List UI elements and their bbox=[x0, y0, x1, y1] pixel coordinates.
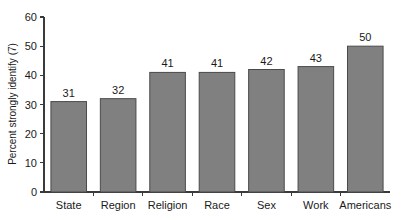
x-axis-category-label: Region bbox=[101, 199, 136, 211]
bar-value-label: 43 bbox=[310, 52, 322, 64]
x-axis-category-label: Work bbox=[303, 199, 329, 211]
bar bbox=[249, 70, 285, 193]
x-axis-category-label: Americans bbox=[339, 199, 391, 211]
y-axis-tick-label: 50 bbox=[25, 40, 37, 52]
bar bbox=[51, 102, 87, 192]
x-axis-category-label: State bbox=[56, 199, 82, 211]
bar-value-label: 32 bbox=[112, 84, 124, 96]
y-axis-title: Percent strongly identify (7) bbox=[7, 43, 18, 165]
x-axis-category-labels: StateRegionReligionRaceSexWorkAmericans bbox=[56, 199, 392, 211]
bar bbox=[100, 99, 136, 192]
bar-chart-figure: Percent strongly identify (7) 0102030405… bbox=[0, 0, 403, 220]
bar bbox=[199, 72, 235, 192]
bar bbox=[298, 67, 334, 192]
y-axis-tick-label: 10 bbox=[25, 157, 37, 169]
y-axis-title-text: Percent strongly identify (7) bbox=[7, 43, 18, 165]
y-axis-tick-label: 30 bbox=[25, 99, 37, 111]
x-axis-category-label: Religion bbox=[148, 199, 188, 211]
chart-canvas: Percent strongly identify (7) 0102030405… bbox=[0, 0, 403, 220]
x-axis-category-label: Sex bbox=[257, 199, 276, 211]
bar-value-label: 41 bbox=[211, 57, 223, 69]
bar-value-label: 42 bbox=[260, 55, 272, 67]
y-axis-tick-label: 60 bbox=[25, 11, 37, 23]
y-axis-tick-label: 20 bbox=[25, 128, 37, 140]
bar bbox=[150, 72, 186, 192]
bar-value-label: 31 bbox=[63, 87, 75, 99]
bar bbox=[347, 46, 383, 192]
bar-value-label: 50 bbox=[359, 31, 371, 43]
y-axis-tick-label: 0 bbox=[31, 186, 37, 198]
y-axis-tick-label: 40 bbox=[25, 69, 37, 81]
x-axis-category-label: Race bbox=[204, 199, 230, 211]
bar-value-label: 41 bbox=[161, 57, 173, 69]
